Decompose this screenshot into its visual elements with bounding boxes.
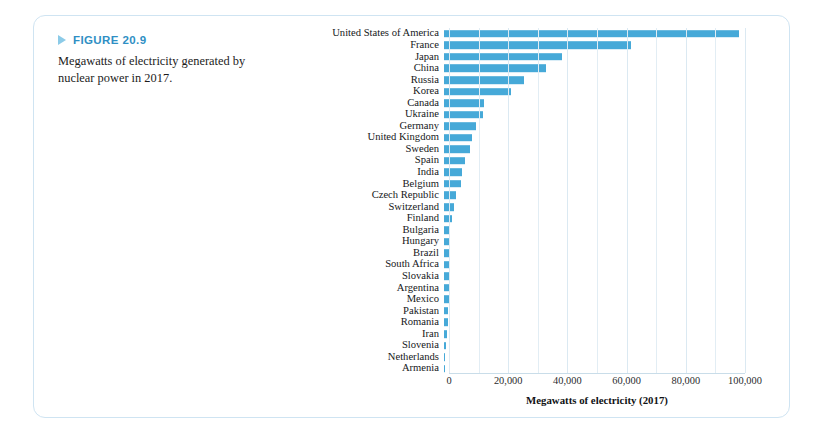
category-label: Russia [277, 75, 444, 86]
bar-cell [444, 305, 777, 317]
chart-row: Switzerland [277, 201, 777, 213]
bar [444, 169, 462, 177]
x-tick-label: 80,000 [672, 375, 701, 386]
category-label: China [277, 63, 444, 74]
chart-row: Mexico [277, 294, 777, 306]
bar [444, 122, 476, 130]
bar-cell [444, 259, 777, 271]
chart-row: Iran [277, 328, 777, 340]
figure-caption-text: Megawatts of electricity generated by nu… [58, 53, 283, 86]
category-label: Iran [277, 329, 444, 340]
bar [444, 99, 484, 107]
figure-number-label: FIGURE 20.9 [73, 34, 146, 46]
category-label: Bulgaria [277, 225, 444, 236]
bar-cell [444, 86, 777, 98]
category-label: Netherlands [277, 352, 444, 363]
bar-cell [444, 247, 777, 259]
bar [444, 145, 470, 153]
category-label: United Kingdom [277, 132, 444, 143]
bar-cell [444, 224, 777, 236]
category-label: Korea [277, 86, 444, 97]
bar-cell [444, 109, 777, 121]
category-label: Romania [277, 317, 444, 328]
bar [444, 226, 450, 234]
x-tick-label: 100,000 [728, 375, 762, 386]
category-label: Brazil [277, 248, 444, 259]
x-axis-title: Megawatts of electricity (2017) [449, 394, 745, 406]
bar-cell [444, 120, 777, 132]
bar [444, 342, 446, 350]
category-label: United States of America [277, 28, 444, 39]
bar-cell [444, 351, 777, 363]
bar [444, 203, 454, 211]
bar-cell [444, 213, 777, 225]
x-tick-label: 60,000 [612, 375, 641, 386]
category-label: Switzerland [277, 202, 444, 213]
bar [444, 53, 562, 61]
bar-cell [444, 178, 777, 190]
category-label: Slovakia [277, 271, 444, 282]
bar-cell [444, 270, 777, 282]
bar-cell [444, 74, 777, 86]
category-label: France [277, 40, 444, 51]
bar-cell [444, 201, 777, 213]
category-label: Argentina [277, 283, 444, 294]
bar [444, 192, 456, 200]
category-label: Japan [277, 52, 444, 63]
bar [444, 65, 546, 73]
chart-row: South Africa [277, 259, 777, 271]
bar [444, 30, 739, 38]
bar-cell [444, 328, 777, 340]
category-label: India [277, 167, 444, 178]
bar-cell [444, 143, 777, 155]
bar [444, 88, 511, 96]
category-label: Sweden [277, 144, 444, 155]
bar [444, 261, 450, 269]
plot-rows-container: United States of AmericaFranceJapanChina… [277, 28, 777, 373]
triangle-right-icon [58, 35, 66, 45]
x-axis-line [449, 373, 745, 374]
x-tick-label: 0 [446, 375, 451, 386]
chart-row: Brazil [277, 247, 777, 259]
category-label: Slovenia [277, 340, 444, 351]
chart-row: Germany [277, 120, 777, 132]
chart-row: Netherlands [277, 351, 777, 363]
bar [444, 284, 449, 292]
chart-row: France [277, 40, 777, 52]
chart-row: Bulgaria [277, 224, 777, 236]
chart-row: Ukraine [277, 109, 777, 121]
category-label: Pakistan [277, 306, 444, 317]
chart-row: Slovakia [277, 270, 777, 282]
category-label: Spain [277, 155, 444, 166]
bar [444, 238, 450, 246]
bar-cell [444, 97, 777, 109]
bar [444, 296, 449, 304]
screenshot-root: FIGURE 20.9 Megawatts of electricity gen… [0, 0, 821, 438]
category-label: Belgium [277, 179, 444, 190]
figure-card: FIGURE 20.9 Megawatts of electricity gen… [33, 15, 790, 418]
bar-cell [444, 340, 777, 352]
chart-row: Romania [277, 317, 777, 329]
bar-cell [444, 190, 777, 202]
bar [444, 76, 524, 84]
bar [444, 365, 445, 373]
bar [444, 307, 448, 315]
category-label: Czech Republic [277, 190, 444, 201]
chart-row: China [277, 63, 777, 75]
chart-row: Argentina [277, 282, 777, 294]
chart-row: Japan [277, 51, 777, 63]
chart-row: United States of America [277, 28, 777, 40]
bar [444, 330, 447, 338]
x-tick-label: 20,000 [494, 375, 523, 386]
chart-row: United Kingdom [277, 132, 777, 144]
bar-cell [444, 63, 777, 75]
figure-caption-block: FIGURE 20.9 Megawatts of electricity gen… [58, 34, 283, 86]
bar-chart: United States of AmericaFranceJapanChina… [277, 28, 777, 413]
chart-row: Czech Republic [277, 190, 777, 202]
chart-row: India [277, 167, 777, 179]
bar-cell [444, 51, 777, 63]
bar [444, 319, 448, 327]
category-label: Germany [277, 121, 444, 132]
chart-row: Russia [277, 74, 777, 86]
bar [444, 180, 461, 188]
